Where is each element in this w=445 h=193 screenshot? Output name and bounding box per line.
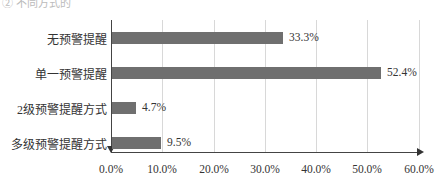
x-tick-label: 60.0% (404, 163, 434, 175)
value-label: 52.4% (387, 66, 417, 78)
x-tick-label: 0.0% (99, 163, 123, 175)
value-label: 33.3% (289, 31, 319, 43)
bar-chart: 无预警提醒 单一预警提醒 2级预警提醒方式 多级预警提醒方式 33.3% 52.… (0, 0, 445, 193)
category-label: 单一预警提醒 (35, 65, 107, 83)
x-tick-label: 10.0% (147, 163, 177, 175)
x-tick-label: 50.0% (352, 163, 382, 175)
category-label: 无预警提醒 (47, 30, 107, 48)
category-label: 多级预警提醒方式 (11, 135, 107, 153)
x-tick-label: 40.0% (301, 163, 331, 175)
x-tick-label: 30.0% (250, 163, 280, 175)
bar-multi-level-warning (112, 137, 161, 149)
gridline-50 (367, 20, 368, 152)
bar-no-warning (112, 32, 283, 44)
gridline-60 (419, 20, 420, 152)
category-label: 2级预警提醒方式 (17, 100, 107, 118)
bar-two-level-warning (112, 102, 136, 114)
x-axis-arrow-icon (417, 148, 424, 156)
x-axis (111, 152, 419, 153)
x-tick-label: 20.0% (199, 163, 229, 175)
value-label: 4.7% (142, 101, 166, 113)
bar-single-warning (112, 67, 381, 79)
value-label: 9.5% (167, 136, 191, 148)
